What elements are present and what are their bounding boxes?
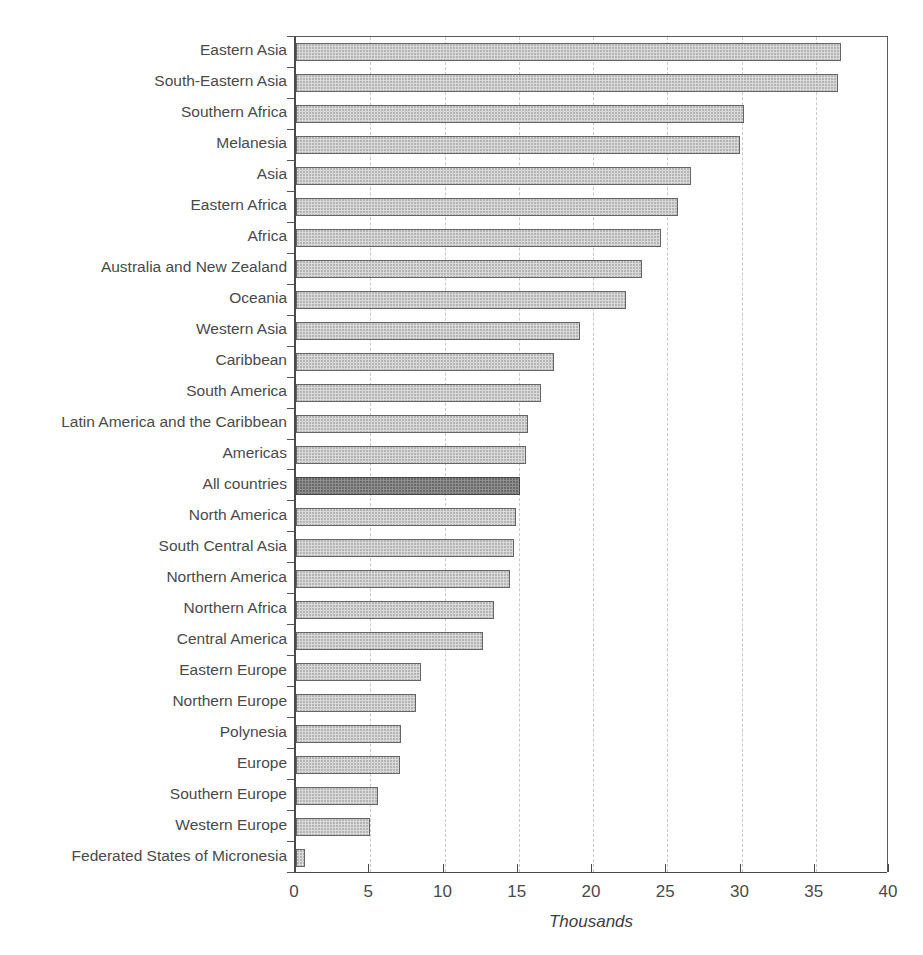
bar xyxy=(296,105,744,123)
bar-row xyxy=(296,43,887,61)
bar-row xyxy=(296,198,887,216)
bar-row xyxy=(296,229,887,247)
category-label: Oceania xyxy=(0,289,287,307)
bar-row xyxy=(296,756,887,774)
y-axis-tick xyxy=(287,315,294,316)
y-axis-tick xyxy=(287,191,294,192)
bar-row xyxy=(296,818,887,836)
y-axis-tick xyxy=(287,500,294,501)
x-axis-tick-label: 0 xyxy=(274,882,314,902)
y-axis-tick xyxy=(287,67,294,68)
bar-row xyxy=(296,384,887,402)
category-label: Caribbean xyxy=(0,351,287,369)
bar-row xyxy=(296,74,887,92)
category-label: Latin America and the Caribbean xyxy=(0,413,287,431)
y-axis-tick xyxy=(287,810,294,811)
y-axis-tick xyxy=(287,872,294,873)
bar xyxy=(296,632,483,650)
bar-chart-figure: Eastern AsiaSouth-Eastern AsiaSouthern A… xyxy=(0,0,923,955)
bar-row xyxy=(296,539,887,557)
bar xyxy=(296,694,416,712)
category-label: Southern Europe xyxy=(0,785,287,803)
bar-row xyxy=(296,632,887,650)
bar xyxy=(296,601,494,619)
y-axis-tick xyxy=(287,284,294,285)
x-axis-tick-label: 10 xyxy=(423,882,463,902)
x-axis-tick xyxy=(517,864,518,872)
bar xyxy=(296,136,740,154)
category-label: South Central Asia xyxy=(0,537,287,555)
y-axis-tick xyxy=(287,562,294,563)
category-label: Western Europe xyxy=(0,816,287,834)
x-axis-tick-label: 5 xyxy=(348,882,388,902)
x-axis-title: Thousands xyxy=(294,912,888,932)
category-label: Melanesia xyxy=(0,134,287,152)
category-label: North America xyxy=(0,506,287,524)
x-axis-tick-label: 40 xyxy=(868,882,908,902)
y-axis-tick xyxy=(287,98,294,99)
bar-row xyxy=(296,353,887,371)
category-label: Africa xyxy=(0,227,287,245)
category-label: Northern Africa xyxy=(0,599,287,617)
y-axis-tick xyxy=(287,129,294,130)
y-axis-tick xyxy=(287,160,294,161)
category-label: Central America xyxy=(0,630,287,648)
bar-row xyxy=(296,477,887,495)
bar-row xyxy=(296,167,887,185)
x-axis-tick-label: 25 xyxy=(645,882,685,902)
y-axis-tick xyxy=(287,717,294,718)
bar-row xyxy=(296,446,887,464)
bar xyxy=(296,291,626,309)
y-axis-tick xyxy=(287,624,294,625)
bar-row xyxy=(296,105,887,123)
y-axis-tick xyxy=(287,686,294,687)
bar xyxy=(296,477,520,495)
y-axis-tick xyxy=(287,779,294,780)
category-label: Western Asia xyxy=(0,320,287,338)
bar-series xyxy=(296,37,887,872)
y-axis-tick xyxy=(287,531,294,532)
category-label: Polynesia xyxy=(0,723,287,741)
x-axis-tick-label: 30 xyxy=(720,882,760,902)
bar xyxy=(296,539,514,557)
x-axis-tick-label: 35 xyxy=(794,882,834,902)
y-axis-tick xyxy=(287,841,294,842)
bar xyxy=(296,756,400,774)
category-label: Australia and New Zealand xyxy=(0,258,287,276)
category-axis-labels: Eastern AsiaSouth-Eastern AsiaSouthern A… xyxy=(0,36,287,872)
bar xyxy=(296,260,642,278)
bar-row xyxy=(296,663,887,681)
bar xyxy=(296,198,678,216)
bar-row xyxy=(296,322,887,340)
y-axis-tick xyxy=(287,36,294,37)
y-axis-tick xyxy=(287,408,294,409)
y-axis-tick xyxy=(287,593,294,594)
bar xyxy=(296,43,841,61)
y-axis-tick xyxy=(287,377,294,378)
category-label: Eastern Europe xyxy=(0,661,287,679)
x-axis-tick xyxy=(443,864,444,872)
bar xyxy=(296,446,526,464)
bar-row xyxy=(296,694,887,712)
x-axis-tick xyxy=(814,864,815,872)
y-axis-tick xyxy=(287,655,294,656)
category-label: Federated States of Micronesia xyxy=(0,847,287,865)
bar-row xyxy=(296,291,887,309)
bar-row xyxy=(296,136,887,154)
category-label: Americas xyxy=(0,444,287,462)
bar-row xyxy=(296,787,887,805)
x-axis-tick xyxy=(591,864,592,872)
x-axis-tick xyxy=(888,864,889,872)
bar xyxy=(296,508,516,526)
bar xyxy=(296,818,370,836)
bar xyxy=(296,725,401,743)
x-axis-tick-label: 20 xyxy=(571,882,611,902)
category-label: South-Eastern Asia xyxy=(0,72,287,90)
bar xyxy=(296,384,541,402)
bar-row xyxy=(296,601,887,619)
bar-row xyxy=(296,415,887,433)
category-label: Eastern Africa xyxy=(0,196,287,214)
y-axis-tick xyxy=(287,469,294,470)
bar xyxy=(296,787,378,805)
x-axis-tick xyxy=(665,864,666,872)
